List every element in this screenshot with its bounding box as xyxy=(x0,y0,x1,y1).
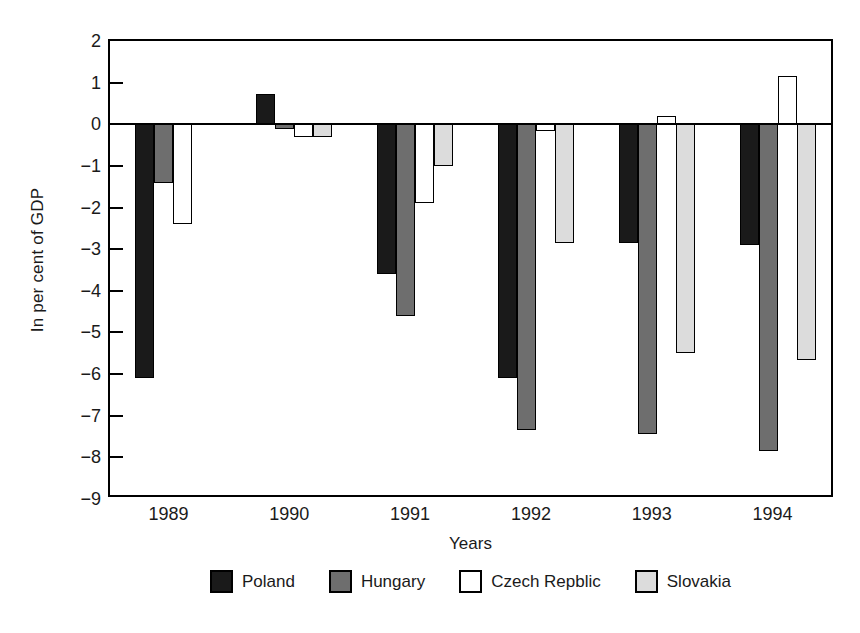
bar-slovakia-1990 xyxy=(313,124,332,136)
legend-label: Czech Repblic xyxy=(491,572,601,592)
chart-figure: In per cent of GDP 210−1−2−3−4−5−6−7−8−9… xyxy=(0,0,860,633)
y-tick-label: −6 xyxy=(80,365,101,383)
chart-legend: PolandHungaryCzech RepblicSlovakia xyxy=(108,570,833,593)
bar-slovakia-1992 xyxy=(555,124,574,243)
legend-item-slovakia[interactable]: Slovakia xyxy=(635,570,731,593)
bar-group xyxy=(593,41,714,495)
bar-group xyxy=(473,41,594,495)
bar-poland-1991 xyxy=(377,124,396,274)
bar-group xyxy=(110,41,231,495)
legend-item-czech-repblic[interactable]: Czech Repblic xyxy=(459,570,601,593)
bar-czech-repblic-1990 xyxy=(294,124,313,136)
x-tick-label-1992: 1992 xyxy=(511,504,551,525)
x-tick-label-1994: 1994 xyxy=(753,504,793,525)
bar-slovakia-1994 xyxy=(797,124,816,359)
legend-swatch-icon xyxy=(210,570,233,593)
bar-czech-repblic-1994 xyxy=(778,76,797,124)
y-tick-label: −1 xyxy=(80,157,101,175)
y-tick-label: −5 xyxy=(80,323,101,341)
x-tick-label-1993: 1993 xyxy=(632,504,672,525)
legend-swatch-icon xyxy=(459,570,482,593)
x-tick-label-1989: 1989 xyxy=(148,504,188,525)
bar-slovakia-1991 xyxy=(434,124,453,166)
x-tick-label-1991: 1991 xyxy=(390,504,430,525)
y-tick-label: −8 xyxy=(80,448,101,466)
y-tick-label: −7 xyxy=(80,407,101,425)
legend-swatch-icon xyxy=(635,570,658,593)
bar-poland-1994 xyxy=(740,124,759,245)
legend-label: Slovakia xyxy=(667,572,731,592)
x-tick-label-1990: 1990 xyxy=(269,504,309,525)
legend-item-hungary[interactable]: Hungary xyxy=(329,570,425,593)
bar-hungary-1990 xyxy=(275,124,294,129)
bar-czech-repblic-1989 xyxy=(173,124,192,224)
legend-swatch-icon xyxy=(329,570,352,593)
y-axis-title: In per cent of GDP xyxy=(28,150,48,370)
y-tick-label: −9 xyxy=(80,490,101,508)
bar-poland-1989 xyxy=(135,124,154,378)
y-tick-label: 2 xyxy=(91,32,101,50)
bar-hungary-1993 xyxy=(638,124,657,434)
bar-czech-repblic-1991 xyxy=(415,124,434,203)
bar-poland-1993 xyxy=(619,124,638,243)
bar-group xyxy=(714,41,835,495)
y-tick-label: −4 xyxy=(80,282,101,300)
x-axis-title: Years xyxy=(108,534,833,554)
bar-slovakia-1993 xyxy=(676,124,695,353)
bar-group xyxy=(231,41,352,495)
y-tick-label: −2 xyxy=(80,199,101,217)
bar-group xyxy=(352,41,473,495)
bar-hungary-1991 xyxy=(396,124,415,316)
legend-label: Poland xyxy=(242,572,295,592)
bar-czech-repblic-1992 xyxy=(536,124,555,130)
legend-label: Hungary xyxy=(361,572,425,592)
bar-hungary-1994 xyxy=(759,124,778,451)
bar-hungary-1992 xyxy=(517,124,536,430)
bar-hungary-1989 xyxy=(154,124,173,182)
y-tick-label: 0 xyxy=(91,115,101,133)
bar-czech-repblic-1993 xyxy=(657,116,676,124)
plot-area: 210−1−2−3−4−5−6−7−8−9 xyxy=(108,39,833,497)
legend-item-poland[interactable]: Poland xyxy=(210,570,295,593)
bar-poland-1990 xyxy=(256,94,275,124)
bar-poland-1992 xyxy=(498,124,517,378)
y-tick-label: −3 xyxy=(80,240,101,258)
y-tick-label: 1 xyxy=(91,74,101,92)
